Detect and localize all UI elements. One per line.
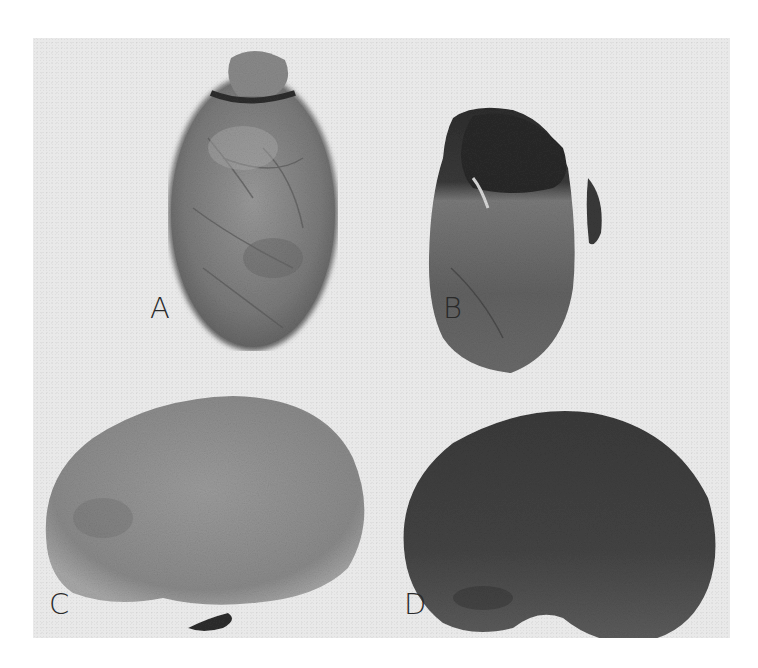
panel-a-specimen (168, 51, 338, 351)
panel-label-a: A (150, 294, 170, 323)
specimen-illustrations (33, 38, 730, 638)
panel-label-c: C (49, 590, 69, 619)
panel-label-b: B (443, 294, 462, 323)
panel-label-d: D (404, 590, 426, 619)
panel-c-specimen (46, 396, 365, 631)
panel-b-specimen (429, 108, 602, 373)
figure-plate: A B C D (33, 38, 730, 638)
panel-d-specimen (404, 411, 716, 638)
